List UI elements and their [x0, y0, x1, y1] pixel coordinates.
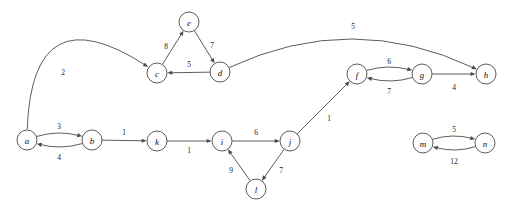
edges-layer	[27, 31, 477, 181]
node-c[interactable]: c	[147, 63, 167, 83]
node-d[interactable]: d	[210, 62, 230, 82]
node-k[interactable]: k	[147, 131, 167, 151]
arrowhead-d-c	[167, 71, 172, 75]
edge-n-m	[436, 147, 476, 150]
edge-a-c	[27, 40, 145, 129]
arrowhead-m-n	[470, 136, 475, 140]
arrowhead-b-a	[37, 143, 42, 147]
node-label-b: b	[90, 136, 95, 146]
node-b[interactable]: b	[82, 130, 102, 150]
arrowhead-j-l	[262, 175, 267, 180]
node-i[interactable]: i	[212, 131, 232, 151]
arrowhead-l-i	[228, 149, 233, 154]
edge-d-h	[229, 39, 474, 68]
edge-weight-i-j: 6	[254, 128, 258, 137]
arrowhead-g-f	[367, 77, 372, 81]
node-j[interactable]: j	[280, 131, 300, 151]
edge-weight-f-g: 6	[387, 57, 391, 66]
edge-weight-m-n: 5	[452, 125, 456, 134]
node-l[interactable]: l	[246, 179, 266, 199]
edge-weight-j-l: 7	[279, 166, 283, 175]
arrowhead-f-g	[407, 67, 412, 71]
edge-weight-a-b: 3	[57, 122, 61, 131]
node-label-h: h	[484, 70, 489, 80]
edge-b-a	[40, 143, 83, 147]
arrowhead-i-j	[275, 139, 280, 143]
arrowhead-a-c	[143, 62, 148, 66]
node-label-m: m	[420, 139, 427, 149]
node-label-e: e	[187, 18, 191, 28]
edge-weight-g-h: 4	[452, 83, 456, 92]
edge-weight-d-h: 5	[351, 22, 355, 31]
arrowhead-n-m	[433, 146, 438, 150]
node-e[interactable]: e	[179, 12, 199, 32]
edge-weight-j-f: 1	[327, 114, 331, 123]
node-f[interactable]: f	[347, 64, 367, 84]
node-label-c: c	[155, 69, 159, 79]
node-label-n: n	[483, 139, 488, 149]
arrowhead-b-k	[142, 139, 147, 143]
edge-weight-k-i: 1	[187, 146, 191, 155]
node-n[interactable]: n	[475, 133, 495, 153]
edge-f-g	[366, 67, 409, 71]
edge-weight-g-f: 7	[387, 87, 391, 96]
edge-a-b	[36, 133, 79, 137]
edge-weight-d-c: 5	[187, 60, 191, 69]
edge-d-c	[170, 72, 210, 73]
edge-weight-e-d: 7	[210, 41, 214, 50]
edge-g-f	[370, 77, 413, 81]
edge-b-k	[102, 140, 144, 141]
edge-weight-n-m: 12	[450, 157, 458, 166]
node-label-j: j	[288, 137, 292, 147]
node-h[interactable]: h	[476, 64, 496, 84]
edge-weight-b-k: 1	[122, 128, 126, 137]
node-m[interactable]: m	[413, 133, 433, 153]
edge-m-n	[433, 136, 473, 139]
node-a[interactable]: a	[17, 130, 37, 150]
graph-canvas: abcdefghijklmn 2348755116791674512	[0, 0, 506, 217]
arrowhead-k-i	[207, 139, 212, 143]
graph-figure: abcdefghijklmn 2348755116791674512	[0, 0, 506, 217]
arrowhead-c-e	[179, 31, 183, 36]
arrowhead-a-b	[77, 133, 82, 137]
edge-labels-layer: 2348755116791674512	[57, 22, 458, 175]
node-g[interactable]: g	[412, 64, 432, 84]
edge-weight-l-i: 9	[229, 166, 233, 175]
edge-weight-a-c: 2	[61, 68, 65, 77]
edge-weight-c-e: 8	[164, 42, 168, 51]
edge-weight-b-a: 4	[57, 153, 61, 162]
arrowhead-e-d	[210, 58, 214, 63]
edge-j-f	[297, 83, 347, 133]
node-label-d: d	[218, 68, 223, 78]
arrowhead-g-h	[471, 72, 476, 76]
node-label-g: g	[420, 70, 425, 80]
node-label-a: a	[25, 136, 30, 146]
